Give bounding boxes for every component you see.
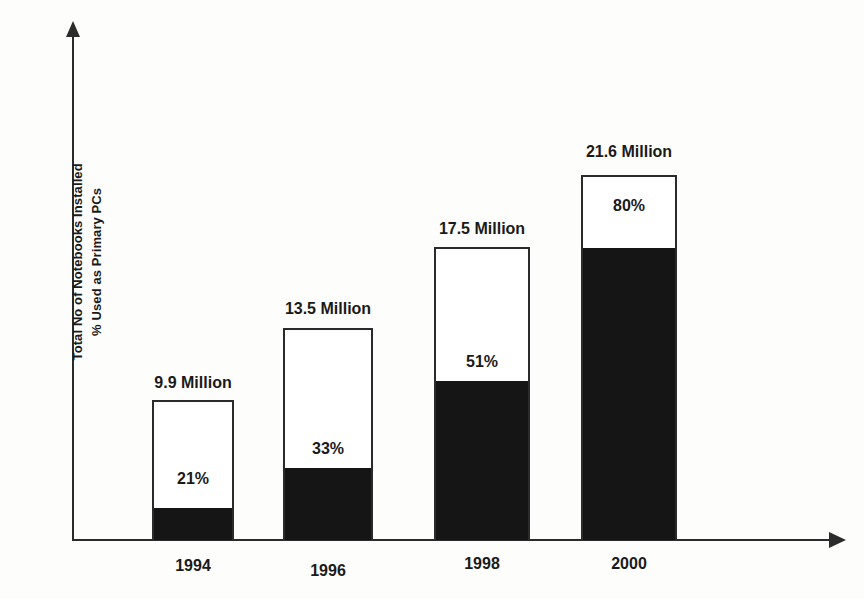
x-axis-label-1998: 1998 xyxy=(442,555,522,573)
bar-percent-label-1994: 21% xyxy=(153,470,233,488)
bar-total-label-1994: 9.9 Million xyxy=(113,374,273,392)
arrow-up-icon xyxy=(66,21,80,37)
bar-percent-label-1996: 33% xyxy=(288,440,368,458)
arrow-right-icon xyxy=(829,532,846,548)
bar-total-label-1996: 13.5 Million xyxy=(248,300,408,318)
bar-total-label-1998: 17.5 Million xyxy=(402,220,562,238)
bar-fill-1996 xyxy=(285,468,371,540)
x-axis-label-2000: 2000 xyxy=(589,555,669,573)
bar-chart: Total No of Notebooks Installed % Used a… xyxy=(0,0,864,599)
bar-fill-1994 xyxy=(154,508,232,540)
bar-fill-1998 xyxy=(436,381,528,540)
x-axis-label-1996: 1996 xyxy=(288,562,368,580)
y-axis-title: Total No of Notebooks Installed % Used a… xyxy=(69,112,107,412)
bar-percent-label-2000: 80% xyxy=(589,197,669,215)
bar-fill-2000 xyxy=(583,248,675,540)
bar-total-label-2000: 21.6 Million xyxy=(549,143,709,161)
x-axis-label-1994: 1994 xyxy=(153,557,233,575)
bar-percent-label-1998: 51% xyxy=(442,353,522,371)
